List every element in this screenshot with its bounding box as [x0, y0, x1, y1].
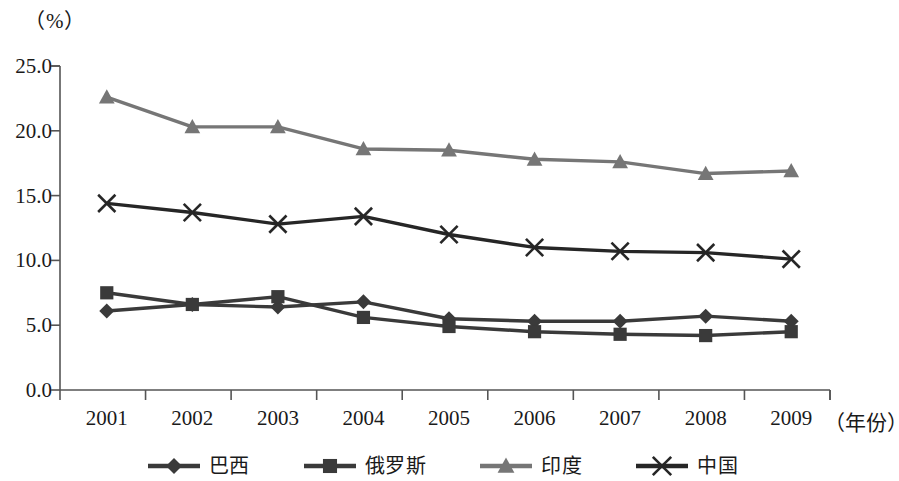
x-axis-tick-label: 2006 [514, 406, 556, 431]
data-point-marker [356, 294, 371, 309]
data-point-marker [166, 458, 182, 474]
data-point-marker [271, 290, 284, 303]
series-line-中国 [107, 203, 791, 259]
legend-item-巴西[interactable]: 巴西 [146, 455, 250, 477]
square-marker [614, 328, 627, 341]
square-marker [100, 286, 113, 299]
x-axis-tick-label: 2003 [257, 406, 299, 431]
legend-label: 巴西 [209, 456, 250, 476]
data-point-marker [614, 328, 627, 341]
data-point-marker [99, 89, 115, 103]
legend-label: 中国 [697, 456, 738, 476]
series-印度 [99, 89, 799, 180]
data-point-marker [99, 303, 114, 318]
square-marker [186, 298, 199, 311]
x-axis-tick-label: 2009 [770, 406, 812, 431]
x-axis-name: （年份） [824, 406, 899, 436]
x-axis-tick-label: 2001 [86, 406, 128, 431]
diamond-marker [698, 309, 713, 324]
legend-marker-square-icon [302, 455, 358, 477]
legend-label: 俄罗斯 [365, 456, 427, 476]
diamond-marker [99, 303, 114, 318]
x-axis-tick-label: 2008 [685, 406, 727, 431]
x-axis-tick-label: 2002 [171, 406, 213, 431]
legend-item-俄罗斯[interactable]: 俄罗斯 [302, 455, 427, 477]
square-marker [271, 290, 284, 303]
x-axis-tick-labels: 200120022003200420052006200720082009 [0, 406, 884, 436]
data-point-marker [613, 314, 628, 329]
chart-legend: 巴西俄罗斯印度中国 [0, 450, 884, 481]
square-marker [785, 325, 798, 338]
data-point-marker [323, 458, 337, 472]
legend-item-中国[interactable]: 中国 [634, 455, 738, 477]
series-line-印度 [107, 97, 791, 173]
data-point-marker [785, 325, 798, 338]
diamond-marker [613, 314, 628, 329]
data-point-marker [442, 320, 455, 333]
data-point-marker [357, 311, 370, 324]
data-point-marker [186, 298, 199, 311]
data-point-marker [100, 286, 113, 299]
data-point-marker [698, 309, 713, 324]
data-point-marker [699, 329, 712, 342]
series-中国 [98, 195, 800, 268]
square-marker [357, 311, 370, 324]
x-axis-tick-label: 2007 [599, 406, 641, 431]
legend-marker-triangle-icon [478, 455, 534, 477]
square-marker [528, 325, 541, 338]
legend-marker-cross-icon [634, 455, 690, 477]
square-marker [323, 458, 337, 472]
triangle-marker [99, 89, 115, 103]
data-point-marker [528, 325, 541, 338]
x-axis-tick-label: 2005 [428, 406, 470, 431]
diamond-marker [166, 458, 182, 474]
legend-marker-diamond-icon [146, 455, 202, 477]
legend-item-印度[interactable]: 印度 [478, 455, 582, 477]
diamond-marker [356, 294, 371, 309]
square-marker [442, 320, 455, 333]
square-marker [699, 329, 712, 342]
x-axis-tick-label: 2004 [342, 406, 384, 431]
legend-label: 印度 [541, 456, 582, 476]
